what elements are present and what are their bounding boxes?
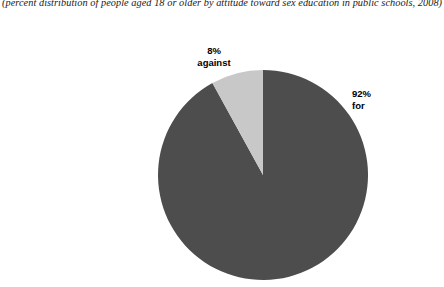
pie-chart-svg (158, 70, 368, 280)
pie-label-for-percent: 92% (352, 88, 396, 100)
pie-label-for-text: for (352, 100, 396, 112)
pie-slice-for (158, 70, 368, 280)
chart-page: (percent distribution of people aged 18 … (0, 0, 444, 287)
pie-label-for: 92% for (352, 88, 396, 111)
pie-chart (158, 70, 368, 280)
pie-label-against-text: against (186, 57, 242, 69)
chart-caption: (percent distribution of people aged 18 … (2, 0, 444, 9)
pie-label-against-percent: 8% (186, 45, 242, 57)
pie-label-against: 8% against (186, 45, 242, 68)
